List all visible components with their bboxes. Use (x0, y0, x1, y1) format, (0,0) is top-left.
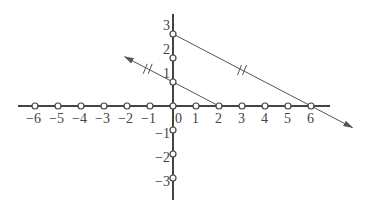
y-tick-label: −1 (155, 126, 170, 141)
x-tick-point (216, 103, 222, 109)
y-tick-point (170, 79, 176, 85)
x-tick-point (285, 103, 291, 109)
y-tick-label: −3 (155, 174, 170, 189)
x-tick-point (147, 103, 153, 109)
y-tick-point (170, 127, 176, 133)
parallel-tick-mark (238, 65, 242, 75)
x-tick-point (101, 103, 107, 109)
x-tick-label: −3 (95, 111, 110, 126)
y-tick-label: 2 (163, 42, 170, 57)
x-tick-label: 1 (192, 111, 199, 126)
y-tick-point (170, 151, 176, 157)
parallel-tick-mark (143, 64, 147, 74)
x-tick-point (170, 103, 176, 109)
x-tick-label: 6 (307, 111, 314, 126)
y-tick-label: −2 (155, 150, 170, 165)
x-tick-label: 2 (215, 111, 222, 126)
x-tick-point (78, 103, 84, 109)
parallel-tick-mark (243, 65, 247, 75)
x-tick-point (308, 103, 314, 109)
x-tick-point (124, 103, 130, 109)
x-tick-point (239, 103, 245, 109)
y-tick-point (170, 175, 176, 181)
y-tick-label: 1 (163, 66, 170, 81)
y-tick-label: 3 (163, 18, 170, 33)
x-tick-label: 0 (175, 111, 182, 126)
y-tick-point (170, 55, 176, 61)
x-tick-label: 5 (284, 111, 291, 126)
x-tick-label: 3 (238, 111, 245, 126)
x-tick-label: −1 (141, 111, 156, 126)
x-tick-label: 4 (261, 111, 268, 126)
x-tick-label: −6 (26, 111, 41, 126)
x-tick-label: −4 (72, 111, 87, 126)
x-tick-label: −2 (118, 111, 133, 126)
coordinate-diagram: −6−5−4−3−2−10123456321−1−2−3 (0, 0, 372, 215)
parallel-tick-mark (148, 64, 152, 74)
x-tick-point (32, 103, 38, 109)
x-tick-point (262, 103, 268, 109)
x-tick-point (55, 103, 61, 109)
y-tick-point (170, 31, 176, 37)
x-tick-label: −5 (49, 111, 64, 126)
x-tick-point (193, 103, 199, 109)
coordinate-plane: −6−5−4−3−2−10123456321−1−2−3 (0, 0, 372, 215)
